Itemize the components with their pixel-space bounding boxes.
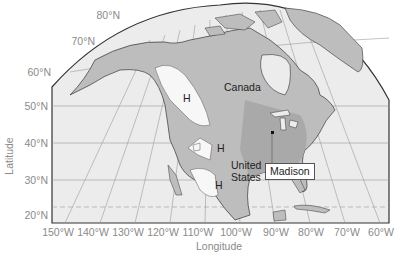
- label-united-states-2: States: [231, 172, 261, 183]
- label-highland-3: H: [215, 180, 223, 191]
- lon-tick-150: 150°W: [42, 226, 74, 238]
- lat-tick-60: 60°N: [7, 66, 51, 78]
- madison-marker: [271, 131, 274, 134]
- lon-tick-110: 110°W: [183, 226, 214, 238]
- label-canada: Canada: [224, 82, 261, 93]
- label-highland-2: H: [217, 143, 225, 154]
- lon-tick-90: 90°W: [263, 226, 289, 238]
- lon-tick-140: 140°W: [77, 226, 109, 238]
- lat-tick-70: 70°N: [51, 35, 95, 47]
- lon-tick-80: 80°W: [298, 226, 324, 238]
- lon-tick-130: 130°W: [112, 226, 144, 238]
- label-madison: Madison: [265, 163, 315, 180]
- lat-tick-20: 20°N: [4, 209, 48, 221]
- y-axis-title: Latitude: [3, 137, 15, 174]
- label-highland-1: H: [183, 93, 191, 104]
- lon-tick-120: 120°W: [147, 226, 179, 238]
- lon-tick-100: 100°W: [220, 226, 252, 238]
- lon-tick-70: 70°W: [334, 226, 360, 238]
- lon-tick-60: 60°W: [368, 226, 394, 238]
- x-axis-title: Longitude: [196, 240, 242, 252]
- lat-tick-80: 80°N: [76, 9, 120, 21]
- yucatan: [273, 210, 286, 221]
- lat-tick-30: 30°N: [4, 174, 48, 186]
- lat-tick-50: 50°N: [4, 100, 48, 112]
- label-united-states-1: United: [231, 160, 261, 171]
